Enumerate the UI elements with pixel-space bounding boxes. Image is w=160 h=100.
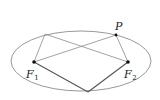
label-f2: F2	[123, 68, 137, 82]
segment-q-f2	[45, 34, 128, 62]
segment-b-f2	[88, 62, 128, 92]
label-f1-main: F	[25, 68, 34, 81]
ellipse	[11, 31, 151, 91]
segment-f1-b	[34, 62, 88, 92]
focus-f1-point	[32, 60, 36, 64]
label-f2-sub: 2	[132, 74, 136, 82]
point-p	[115, 34, 118, 37]
focus-f2-point	[126, 60, 130, 64]
label-p: P	[114, 20, 123, 33]
label-f1-sub: 1	[34, 74, 38, 82]
segment-p-f2	[116, 35, 128, 62]
label-f1: F1	[25, 68, 39, 82]
segment-f1-p	[34, 35, 116, 62]
ellipse-diagram: P F1 F2	[0, 0, 160, 100]
label-f2-main: F	[123, 68, 132, 81]
